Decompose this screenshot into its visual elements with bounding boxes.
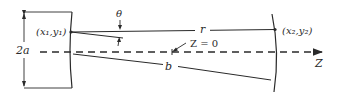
point-2-marker xyxy=(273,28,276,31)
ray-r xyxy=(71,31,195,33)
point-1-label: (x₁,y₁) xyxy=(36,26,66,37)
axis-label: Z xyxy=(314,57,323,70)
ray-b xyxy=(73,54,163,65)
origin-marker xyxy=(172,43,186,55)
aperture-dimension: 2a xyxy=(15,13,30,87)
theta-indicator xyxy=(117,20,122,46)
resonator-diagram: 2a Z r θ (x₁,y₁) (x₂,y₂) b Z = 0 xyxy=(0,0,342,96)
point-1-marker xyxy=(69,30,72,33)
angle-label: θ xyxy=(116,8,122,19)
left-mirror xyxy=(24,12,72,88)
distance-r-label: r xyxy=(200,23,206,36)
origin-label: Z = 0 xyxy=(190,38,218,49)
aperture-label: 2a xyxy=(15,44,30,57)
point-2-label: (x₂,y₂) xyxy=(282,25,312,36)
tilted-ray xyxy=(71,32,123,38)
distance-b-label: b xyxy=(165,60,172,73)
right-mirror xyxy=(272,14,277,92)
